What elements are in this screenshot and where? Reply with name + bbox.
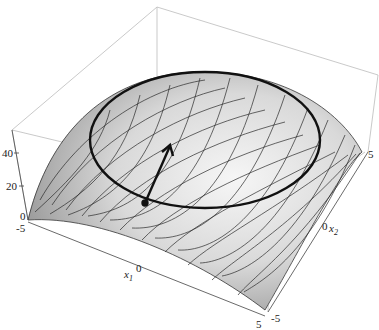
x1-tick-max: 5: [256, 318, 262, 330]
surface: [28, 72, 362, 310]
surface-plot: 40 20 0 -5 x1 0 5 -5 0 x2 5: [0, 0, 379, 330]
z-tick-0: 0: [20, 210, 26, 222]
x1-label: x1: [123, 268, 133, 283]
x1-tick-min: -5: [16, 222, 26, 234]
z-tick-20: 20: [6, 180, 18, 192]
x1-tick-zero: 0: [136, 262, 142, 274]
x2-tick-max: 5: [368, 148, 374, 160]
x2-tick-zero: 0: [322, 220, 328, 232]
x2-tick-min: -5: [271, 312, 281, 324]
z-axis: [12, 130, 28, 220]
z-tick-40: 40: [2, 147, 14, 159]
x2-label: x2: [328, 222, 338, 237]
